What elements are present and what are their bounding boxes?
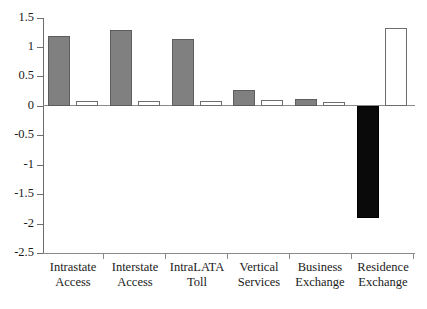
- category-tick: [165, 254, 166, 259]
- bar-series-1-3: [233, 90, 255, 106]
- category-tick: [103, 254, 104, 259]
- bar-series-2-3: [261, 100, 283, 106]
- y-tick-mark: [37, 76, 43, 77]
- y-tick-mark: [37, 106, 43, 107]
- category-label-line: Intrastate: [43, 260, 103, 275]
- category-tick: [413, 254, 414, 259]
- category-label-line: Access: [105, 275, 165, 290]
- category-label-line: Residence: [350, 260, 416, 275]
- y-tick-mark: [37, 47, 43, 48]
- category-label-1: Interstate Access: [105, 260, 165, 290]
- y-tick-label: -2: [24, 217, 34, 230]
- y-tick-mark: [37, 165, 43, 166]
- category-label-line: Services: [229, 275, 289, 290]
- bar-series-2-0: [76, 101, 98, 106]
- bar-series-1-2: [172, 39, 194, 107]
- category-label-2: IntraLATA Toll: [167, 260, 227, 290]
- category-label-line: Exchange: [350, 275, 416, 290]
- y-tick-label: -1: [24, 158, 34, 171]
- bar-series-1-0: [48, 36, 70, 107]
- category-tick: [289, 254, 290, 259]
- y-tick-label: -1.5: [14, 187, 34, 200]
- y-tick-mark: [37, 224, 43, 225]
- category-axis-line: [43, 253, 415, 254]
- y-tick-label: -2.5: [14, 246, 34, 259]
- category-tick: [351, 254, 352, 259]
- bar-series-1-5: [357, 106, 379, 218]
- y-tick-label: -0.5: [14, 128, 34, 141]
- category-label-line: Toll: [167, 275, 227, 290]
- y-tick-mark: [37, 194, 43, 195]
- category-label-line: IntraLATA: [167, 260, 227, 275]
- y-tick-mark: [37, 18, 43, 19]
- bar-series-1-1: [110, 30, 132, 106]
- y-tick-label: 0.5: [18, 69, 34, 82]
- category-label-line: Exchange: [288, 275, 352, 290]
- category-label-0: Intrastate Access: [43, 260, 103, 290]
- bar-series-2-5: [385, 28, 407, 106]
- category-label-line: Vertical: [229, 260, 289, 275]
- y-tick-mark: [37, 135, 43, 136]
- bar-series-2-4: [323, 102, 345, 106]
- y-tick-label: 1.5: [18, 11, 34, 24]
- category-label-line: Interstate: [105, 260, 165, 275]
- category-label-3: Vertical Services: [229, 260, 289, 290]
- category-label-5: Residence Exchange: [350, 260, 416, 290]
- category-label-4: Business Exchange: [288, 260, 352, 290]
- category-label-line: Access: [43, 275, 103, 290]
- y-tick-label: 1: [28, 40, 34, 53]
- bar-chart: 1.5 1 0.5 0 -0.5 -1 -1.5 -2 -2.5 Intrast…: [0, 0, 427, 309]
- y-tick-label: 0: [28, 99, 34, 112]
- bar-series-2-1: [138, 101, 160, 106]
- bar-series-2-2: [200, 101, 222, 106]
- category-tick: [227, 254, 228, 259]
- bar-series-1-4: [295, 99, 317, 106]
- category-label-line: Business: [288, 260, 352, 275]
- y-axis-spine: [43, 18, 44, 254]
